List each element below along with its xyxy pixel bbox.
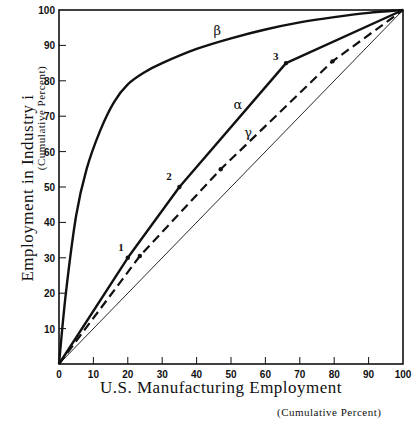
y-tick-label: 20: [44, 288, 56, 299]
point-label: 3: [273, 50, 279, 62]
data-point-marker: [126, 256, 130, 260]
x-tick-label: 10: [88, 369, 100, 380]
curve-label: α: [233, 97, 242, 112]
x-tick-label: 90: [363, 369, 375, 380]
point-label: 2: [166, 170, 172, 182]
x-axis-sublabel: (Cumulative Percent): [277, 406, 381, 418]
data-point-marker: [284, 61, 288, 65]
y-tick-label: 40: [44, 217, 56, 228]
x-tick-label: 100: [395, 369, 412, 380]
y-tick-label: 50: [44, 182, 56, 193]
curve-label: β: [213, 23, 221, 38]
y-axis-sublabel: (Cumulative Percent): [35, 66, 47, 170]
data-point-marker: [218, 167, 222, 171]
x-axis-label: U.S. Manufacturing Employment: [100, 378, 342, 398]
data-point-marker: [330, 59, 334, 63]
data-series: [59, 10, 403, 364]
y-tick-label: 100: [38, 5, 55, 16]
x-tick-label: 0: [56, 369, 62, 380]
lorenz-chart: 0102030405060708090100102030405060708090…: [0, 0, 418, 434]
curve-label: γ: [244, 125, 252, 140]
y-tick-label: 10: [44, 324, 56, 335]
y-tick-label: 30: [44, 253, 56, 264]
y-tick-label: 90: [44, 40, 56, 51]
equality-line: [59, 10, 403, 364]
data-point-marker: [177, 185, 181, 189]
data-point-marker: [138, 254, 142, 258]
point-label: 1: [118, 241, 124, 253]
